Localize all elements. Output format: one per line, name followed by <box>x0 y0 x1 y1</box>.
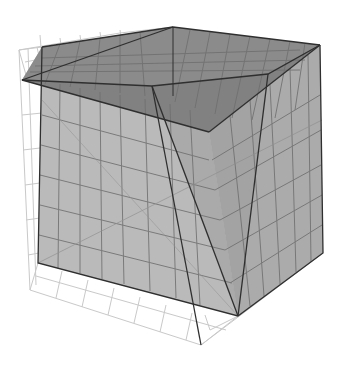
cube-render <box>0 0 346 373</box>
